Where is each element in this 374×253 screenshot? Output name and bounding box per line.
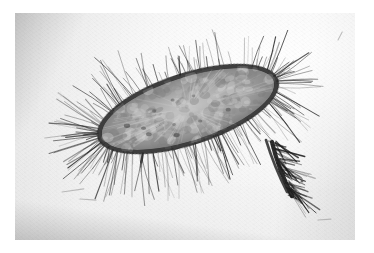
print-edge [15, 13, 355, 240]
micrograph-figure [0, 0, 374, 253]
photographic-print [15, 13, 355, 240]
